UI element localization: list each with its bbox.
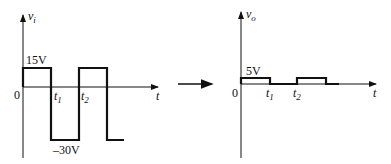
waveform-diagram [0, 0, 391, 164]
input-waveform [23, 68, 124, 140]
output-axes [241, 12, 376, 158]
input-low-level-label: –30V [53, 144, 80, 156]
input-t2-label: t2 [81, 90, 89, 105]
input-y-axis-label: vi [28, 10, 36, 25]
input-x-axis-label: t [156, 90, 159, 102]
output-t2-label: t2 [293, 87, 301, 102]
output-high-level-label: 5V [246, 65, 261, 77]
input-high-level-label: 15V [26, 54, 47, 66]
output-waveform [241, 78, 339, 84]
input-axes [23, 15, 158, 158]
input-origin-label: 0 [14, 89, 20, 101]
input-t1-label: t1 [54, 90, 62, 105]
output-y-axis-label: vo [246, 8, 256, 23]
output-x-axis-label: t [373, 87, 376, 99]
output-t1-label: t1 [266, 87, 274, 102]
output-origin-label: 0 [232, 87, 238, 99]
